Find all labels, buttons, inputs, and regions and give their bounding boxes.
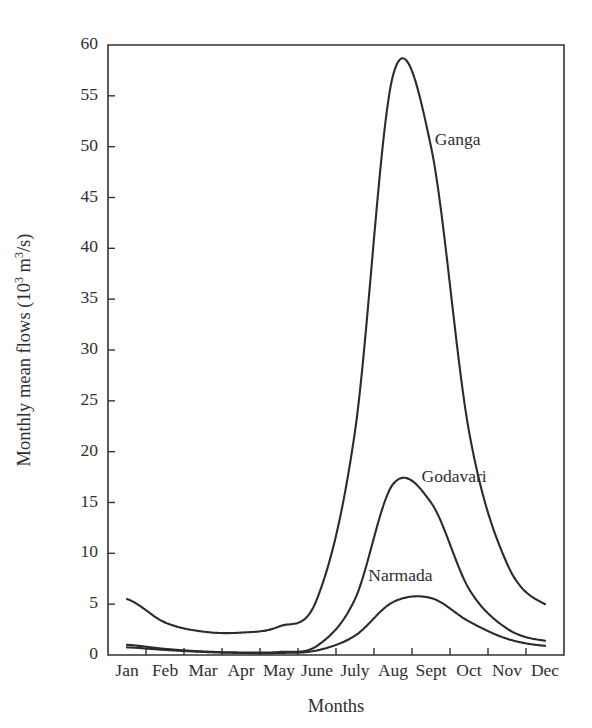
- plot-frame: [108, 45, 564, 655]
- series-label-narmada: Narmada: [368, 565, 432, 585]
- y-axis-tick-label: 35: [81, 287, 99, 307]
- x-axis-tick-label: Sept: [415, 660, 446, 680]
- x-axis-tick-label: June: [301, 660, 333, 680]
- y-axis-tick-label: 45: [81, 186, 99, 206]
- series-label-ganga: Ganga: [435, 129, 481, 149]
- y-axis-tick-label: 50: [81, 135, 99, 155]
- x-axis-title: Months: [308, 696, 365, 716]
- x-axis-tick-label: Jan: [115, 660, 139, 680]
- x-axis-tick-label: Dec: [531, 660, 559, 680]
- svg-text:Monthly mean flows (103 m3/s): Monthly mean flows (103 m3/s): [12, 234, 35, 467]
- y-axis-tick-label: 25: [81, 389, 99, 409]
- y-axis-title: Monthly mean flows (103 m3/s): [12, 234, 35, 467]
- x-axis-tick-label: Apr: [227, 660, 254, 680]
- y-axis-tick-label: 30: [81, 338, 99, 358]
- x-axis-tick-label: Nov: [492, 660, 522, 680]
- y-axis-tick-marks: [108, 96, 115, 604]
- y-axis-tick-label: 10: [81, 541, 99, 561]
- y-axis-tick-labels: 051015202530354045505560: [81, 33, 99, 663]
- y-axis-tick-label: 15: [81, 491, 99, 511]
- series-label-godavari: Godavari: [422, 466, 487, 486]
- y-axis-tick-label: 20: [81, 440, 99, 460]
- y-axis-tick-label: 60: [81, 33, 99, 53]
- series-line-narmada: [127, 596, 545, 653]
- x-axis-tick-label: July: [340, 660, 369, 680]
- series-line-ganga: [127, 58, 545, 633]
- x-axis-tick-label: Oct: [456, 660, 481, 680]
- x-axis-tick-label: Aug: [378, 660, 408, 680]
- x-axis-tick-labels: JanFebMarAprMayJuneJulyAugSeptOctNovDec: [115, 660, 559, 680]
- series-line-godavari: [127, 478, 545, 653]
- y-axis-tick-label: 5: [89, 592, 98, 612]
- data-series-group: [127, 58, 545, 653]
- x-axis-tick-label: Feb: [152, 660, 179, 680]
- axis-frame: [108, 45, 564, 655]
- x-axis-tick-label: May: [263, 660, 295, 680]
- series-annotation-group: GangaGodavariNarmada: [368, 129, 486, 585]
- chart-canvas: 051015202530354045505560 JanFebMarAprMay…: [0, 0, 592, 728]
- y-axis-tick-label: 0: [89, 643, 98, 663]
- x-axis-tick-label: Mar: [188, 660, 217, 680]
- y-axis-tick-label: 40: [81, 236, 99, 256]
- chart-figure: 051015202530354045505560 JanFebMarAprMay…: [0, 0, 592, 728]
- y-axis-tick-label: 55: [81, 84, 99, 104]
